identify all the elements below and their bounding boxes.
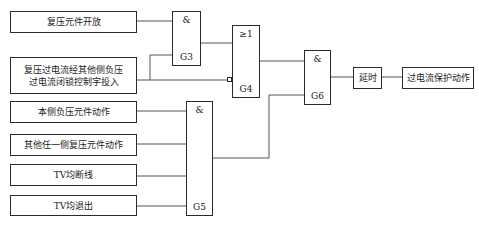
negation-bubble: [228, 78, 232, 82]
gate-label: G5: [187, 202, 212, 212]
input-tv-disconnected: TV均断线: [10, 164, 137, 186]
gate-label: G4: [233, 84, 259, 94]
gate-g4: ≥1 G4: [232, 25, 260, 98]
input-label-line2: 过电流闭锁控制字投入: [29, 76, 119, 88]
delay-block: 延时: [353, 67, 382, 89]
and-symbol: &: [173, 15, 200, 25]
input-other-side-voltage: 其他任一侧复压元件动作: [10, 134, 137, 156]
or-symbol: ≥1: [233, 29, 259, 39]
input-label: TV均退出: [54, 200, 94, 212]
gate-label: G6: [305, 91, 330, 101]
and-symbol: &: [305, 54, 330, 64]
gate-g3: & G3: [172, 11, 201, 66]
output-label: 过电流保护动作: [407, 72, 470, 84]
gate-g5: & G5: [186, 101, 213, 216]
input-label: 复压元件开放: [47, 16, 101, 28]
gate-label: G3: [173, 52, 200, 62]
input-label: TV均断线: [54, 169, 94, 181]
gate-g6: & G6: [304, 50, 331, 105]
input-local-negative-voltage: 本侧负压元件动作: [10, 101, 137, 123]
input-voltage-element-open: 复压元件开放: [10, 11, 137, 33]
input-label-line1: 复压过电流经其他侧负压: [24, 64, 123, 76]
and-symbol: &: [187, 105, 212, 115]
input-tv-withdrawn: TV均退出: [10, 195, 137, 216]
delay-label: 延时: [359, 72, 377, 84]
input-control-word-enabled: 复压过电流经其他侧负压 过电流闭锁控制字投入: [10, 57, 137, 94]
output-overcurrent-trip: 过电流保护动作: [402, 67, 474, 89]
input-label: 本侧负压元件动作: [38, 106, 110, 118]
input-label: 其他任一侧复压元件动作: [24, 139, 123, 151]
